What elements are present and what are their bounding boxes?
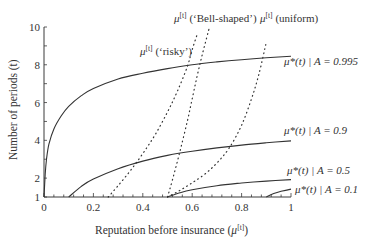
x-tick-label: 0	[41, 201, 47, 213]
series-line-0	[44, 56, 291, 197]
chart: 00.20.40.60.811246810 μ[t] (‘risky’) μ[t…	[0, 0, 365, 239]
x-axis-title: Reputation before insurance (μ[t])	[95, 223, 248, 237]
y-tick-label: 4	[35, 134, 41, 146]
y-tick-label: 8	[35, 59, 41, 71]
label-a-0995: μ*(t) | A = 0.995	[283, 55, 359, 68]
label-risky: μ[t] (‘risky’)	[139, 44, 192, 58]
y-tick-label: 1	[35, 191, 41, 203]
label-uniform: μ[t] (uniform)	[259, 11, 318, 25]
x-tick-label: 0.2	[87, 201, 101, 213]
y-tick-label: 2	[35, 172, 41, 184]
x-tick-label: 1	[288, 201, 294, 213]
label-a-05: μ*(t) | A = 0.5	[286, 164, 351, 177]
series-line-3	[266, 189, 291, 197]
label-a-09: μ*(t) | A = 0.9	[283, 124, 348, 137]
y-axis-title: Number of periods (t)	[7, 59, 20, 160]
series-line-6	[168, 42, 267, 197]
series-line-4	[108, 35, 197, 197]
label-bell-shaped: μ[t] (‘Bell-shaped’)	[173, 11, 257, 25]
y-tick-label: 10	[29, 21, 41, 33]
series-line-1	[69, 141, 291, 197]
x-tick-label: 0.8	[235, 201, 249, 213]
y-tick-label: 6	[35, 97, 41, 109]
x-tick-label: 0.6	[185, 201, 199, 213]
x-tick-label: 0.4	[136, 201, 150, 213]
label-a-01: μ*(t) | A = 0.1	[294, 183, 358, 196]
